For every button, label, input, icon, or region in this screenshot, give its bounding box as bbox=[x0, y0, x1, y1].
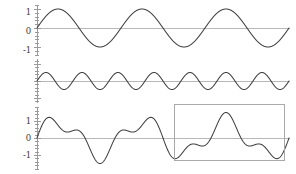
waveform-figure: 1 0 -1 1 0 -1 1 0 -1 bbox=[0, 0, 296, 174]
panel-high-frequency-sine: 1 0 -1 bbox=[0, 58, 296, 104]
panel-2-plot bbox=[0, 58, 296, 104]
panel-composite-signal: 1 0 -1 bbox=[0, 106, 296, 170]
panel-1-plot bbox=[0, 4, 296, 56]
panel-1-ytick-0: 0 bbox=[15, 27, 31, 36]
panel-1-ytick-neg1: -1 bbox=[15, 46, 31, 55]
panel-3-plot bbox=[0, 106, 296, 170]
panel-low-frequency-sine: 1 0 -1 bbox=[0, 4, 296, 56]
panel-1-ytick-1: 1 bbox=[15, 8, 31, 17]
